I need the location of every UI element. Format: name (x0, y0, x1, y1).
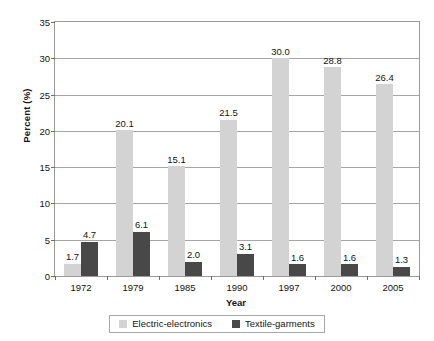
x-tick-mark (159, 276, 160, 280)
x-tick-label: 2005 (363, 282, 423, 293)
x-axis-title: Year (54, 297, 418, 308)
bar-value-label: 21.5 (219, 108, 238, 118)
x-tick-mark (211, 276, 212, 280)
bar-value-label: 15.1 (167, 155, 186, 165)
bar: 1.6 (289, 264, 306, 276)
chart-legend: Electric-electronicsTextile-garments (0, 315, 434, 333)
legend-swatch-icon (232, 320, 240, 328)
gridline (55, 95, 419, 96)
y-tick-label: 0 (16, 271, 50, 282)
bar-value-label: 28.8 (323, 56, 342, 66)
x-tick-mark (367, 276, 368, 280)
y-tick-mark (51, 95, 55, 96)
legend-box: Electric-electronicsTextile-garments (109, 315, 324, 333)
y-tick-mark (51, 22, 55, 23)
bar-value-label: 1.6 (343, 253, 356, 263)
bar-value-label: 26.4 (375, 73, 394, 83)
y-tick-mark (51, 167, 55, 168)
x-tick-mark (419, 276, 420, 280)
legend-entry[interactable]: Electric-electronics (119, 318, 212, 329)
y-tick-mark (51, 240, 55, 241)
legend-label: Textile-garments (245, 318, 315, 329)
gridline (55, 240, 419, 241)
y-tick-label: 20 (16, 125, 50, 136)
bar: 15.1 (168, 166, 185, 276)
bar: 21.5 (220, 120, 237, 276)
y-tick-label: 15 (16, 162, 50, 173)
bar: 4.7 (81, 242, 98, 276)
x-tick-mark (55, 276, 56, 280)
gridline (55, 203, 419, 204)
y-tick-label: 25 (16, 89, 50, 100)
bar-chart: Percent (%) 05101520253035 1.74.720.16.1… (0, 0, 434, 341)
bar-value-label: 2.0 (187, 250, 200, 260)
x-tick-label: 1979 (103, 282, 163, 293)
x-tick-label: 1985 (155, 282, 215, 293)
x-tick-mark (315, 276, 316, 280)
bar: 26.4 (376, 84, 393, 276)
legend-label: Electric-electronics (132, 318, 212, 329)
y-tick-label: 10 (16, 198, 50, 209)
bar-value-label: 4.7 (83, 230, 96, 240)
x-tick-mark (107, 276, 108, 280)
y-tick-mark (51, 203, 55, 204)
x-tick-label: 2000 (311, 282, 371, 293)
bar: 2.0 (185, 262, 202, 277)
legend-entry[interactable]: Textile-garments (232, 318, 315, 329)
bar-value-label: 3.1 (239, 242, 252, 252)
x-tick-label: 1997 (259, 282, 319, 293)
legend-swatch-icon (119, 320, 127, 328)
bar: 1.3 (393, 267, 410, 276)
y-tick-mark (51, 131, 55, 132)
bar: 20.1 (116, 130, 133, 276)
bar-value-label: 20.1 (115, 119, 134, 129)
y-tick-label: 5 (16, 234, 50, 245)
bar: 6.1 (133, 232, 150, 276)
gridline (55, 131, 419, 132)
bar: 1.7 (64, 264, 81, 276)
plot-area: 05101520253035 1.74.720.16.115.12.021.53… (54, 21, 420, 277)
gridline (55, 167, 419, 168)
bar: 3.1 (237, 254, 254, 276)
bar-value-label: 1.7 (66, 252, 79, 262)
y-tick-label: 35 (16, 17, 50, 28)
x-tick-label: 1990 (207, 282, 267, 293)
x-tick-label: 1972 (51, 282, 111, 293)
y-tick-mark (51, 58, 55, 59)
x-tick-mark (263, 276, 264, 280)
bar: 1.6 (341, 264, 358, 276)
bar-value-label: 30.0 (271, 47, 290, 57)
bar-value-label: 1.3 (395, 255, 408, 265)
bar: 30.0 (272, 58, 289, 276)
bar-value-label: 1.6 (291, 253, 304, 263)
y-tick-label: 30 (16, 53, 50, 64)
bar-value-label: 6.1 (135, 220, 148, 230)
gridline (55, 58, 419, 59)
bar: 28.8 (324, 67, 341, 276)
